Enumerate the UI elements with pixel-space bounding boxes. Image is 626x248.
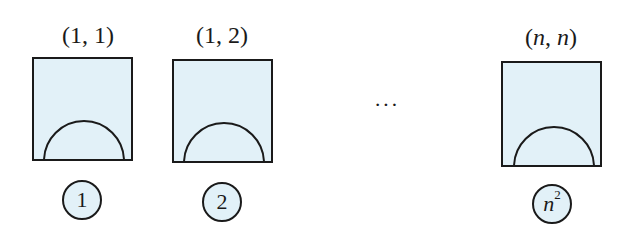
- tile-index: n2: [543, 191, 561, 217]
- semicircle-icon: [503, 63, 602, 167]
- tile-box: [501, 61, 602, 167]
- ellipsis: ···: [374, 92, 399, 118]
- paren-close: ): [569, 24, 577, 50]
- semicircle-icon: [34, 59, 133, 161]
- tile-index-badge: 2: [202, 182, 242, 222]
- coord-sep: ,: [545, 24, 557, 50]
- tile-coord-label: (1, 1): [28, 22, 148, 49]
- index-base: n: [543, 191, 554, 216]
- tile-index: 1: [77, 187, 88, 213]
- tile-index-badge: 1: [62, 180, 102, 220]
- semicircle-icon: [174, 61, 273, 163]
- paren-open: (: [525, 24, 533, 50]
- tile-coord-label: (n, n): [491, 24, 611, 51]
- tile-box: [172, 59, 273, 163]
- coord-row: n: [533, 24, 545, 50]
- tile-coord-label: (1, 2): [162, 22, 282, 49]
- index-exponent: 2: [554, 187, 561, 202]
- tile-box: [32, 57, 133, 161]
- tile-index: 2: [217, 189, 228, 215]
- coord-col: n: [557, 24, 569, 50]
- tile-index-badge: n2: [532, 184, 572, 224]
